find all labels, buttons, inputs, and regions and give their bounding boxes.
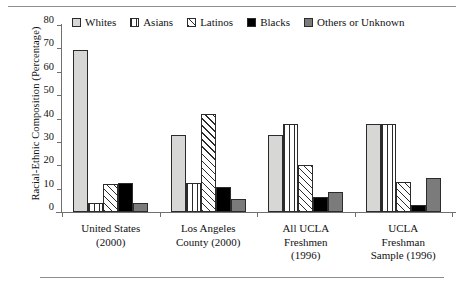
bar-latinos-group-4 bbox=[396, 182, 411, 212]
x-category-line: County (2000) bbox=[160, 236, 258, 250]
bar-others-or-unknown-group-3 bbox=[328, 192, 343, 212]
x-category-label-2: Los AngelesCounty (2000) bbox=[160, 222, 258, 249]
y-tick-label-70: 70 bbox=[44, 42, 55, 43]
bar-blacks-group-4 bbox=[411, 205, 426, 212]
chart-figure: Whites Asians Latinos Blacks Others or U… bbox=[0, 0, 463, 289]
y-tick-60: 60 bbox=[0, 72, 62, 73]
bottom-rule bbox=[40, 277, 444, 278]
x-tick-2 bbox=[257, 212, 258, 217]
x-category-line: Freshmen bbox=[257, 236, 355, 250]
y-tick-label-80: 80 bbox=[44, 19, 55, 20]
bar-others-or-unknown-group-2 bbox=[231, 199, 246, 212]
bar-asians-group-2 bbox=[186, 183, 201, 212]
y-tick-label-40: 40 bbox=[44, 113, 55, 114]
bar-latinos-group-2 bbox=[201, 114, 216, 212]
y-tick-label-0: 0 bbox=[49, 206, 54, 207]
bar-group-2 bbox=[171, 25, 246, 212]
bar-asians-group-3 bbox=[283, 124, 298, 212]
bar-asians-group-1 bbox=[88, 203, 103, 212]
x-category-label-3: All UCLAFreshmen(1996) bbox=[257, 222, 355, 263]
x-tick-3 bbox=[355, 212, 356, 217]
y-tick-label-30: 30 bbox=[44, 136, 55, 137]
x-category-line: (2000) bbox=[62, 236, 160, 250]
x-tick-4 bbox=[452, 212, 453, 217]
x-tick-0 bbox=[62, 212, 63, 217]
x-category-line: Freshman bbox=[355, 236, 453, 250]
x-axis-line bbox=[56, 212, 456, 213]
y-tick-label-10: 10 bbox=[44, 183, 55, 184]
bar-whites-group-1 bbox=[73, 50, 88, 212]
bar-whites-group-3 bbox=[268, 135, 283, 212]
y-tick-40: 40 bbox=[0, 119, 62, 120]
y-tick-0: 0 bbox=[0, 212, 62, 213]
y-tick-10: 10 bbox=[0, 189, 62, 190]
top-rule bbox=[8, 6, 456, 7]
plot-area bbox=[62, 25, 452, 212]
x-category-line: All UCLA bbox=[257, 222, 355, 236]
bar-whites-group-2 bbox=[171, 135, 186, 212]
x-tick-1 bbox=[160, 212, 161, 217]
y-axis-title: Racial-Ethnic Composition (Percentage) bbox=[30, 9, 41, 219]
x-category-line: UCLA bbox=[355, 222, 453, 236]
x-category-label-4: UCLAFreshmanSample (1996) bbox=[355, 222, 453, 263]
y-tick-50: 50 bbox=[0, 95, 62, 96]
bar-others-or-unknown-group-4 bbox=[426, 178, 441, 212]
y-tick-70: 70 bbox=[0, 48, 62, 49]
bar-blacks-group-2 bbox=[216, 187, 231, 212]
x-category-line: Sample (1996) bbox=[355, 249, 453, 263]
x-category-line: (1996) bbox=[257, 249, 355, 263]
bar-group-1 bbox=[73, 25, 148, 212]
x-category-label-1: United States(2000) bbox=[62, 222, 160, 249]
y-tick-label-60: 60 bbox=[44, 66, 55, 67]
x-category-line: United States bbox=[62, 222, 160, 236]
bar-group-4 bbox=[366, 25, 441, 212]
y-tick-20: 20 bbox=[0, 165, 62, 166]
bar-asians-group-4 bbox=[381, 124, 396, 212]
bar-blacks-group-3 bbox=[313, 197, 328, 212]
bar-latinos-group-1 bbox=[103, 184, 118, 212]
x-category-line: Los Angeles bbox=[160, 222, 258, 236]
bar-group-3 bbox=[268, 25, 343, 212]
bar-others-or-unknown-group-1 bbox=[133, 203, 148, 212]
bar-whites-group-4 bbox=[366, 124, 381, 212]
bar-latinos-group-3 bbox=[298, 165, 313, 212]
y-tick-label-50: 50 bbox=[44, 89, 55, 90]
bar-blacks-group-1 bbox=[118, 183, 133, 212]
y-tick-80: 80 bbox=[0, 25, 62, 26]
y-tick-30: 30 bbox=[0, 142, 62, 143]
y-tick-label-20: 20 bbox=[44, 159, 55, 160]
